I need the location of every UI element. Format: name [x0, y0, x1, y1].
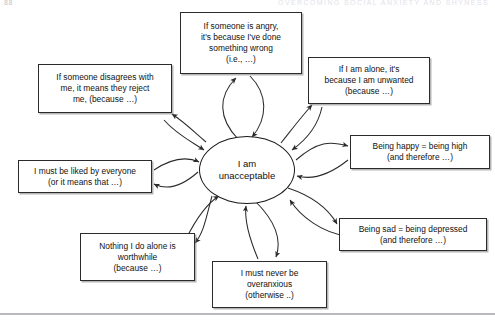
belief-line: (because …): [325, 86, 414, 97]
belief-line: me, it means they reject: [56, 83, 153, 94]
belief-line: (and therefore …): [359, 235, 468, 246]
link-happy-in: [297, 160, 348, 177]
link-overanx-in: [246, 206, 258, 259]
belief-line: (i.e., …): [201, 54, 281, 65]
core-belief-line-1: I am: [219, 158, 276, 170]
link-angry-out: [223, 78, 238, 139]
footer-rule: [0, 313, 495, 315]
figure-page: 88 OVERCOMING SOCIAL ANXIETY AND SHYNESS: [0, 0, 495, 328]
belief-line: me, (because …): [56, 94, 153, 105]
belief-line: I must be liked by everyone: [34, 166, 136, 177]
belief-box-happy: Being happy = being high (and therefore …: [350, 135, 490, 169]
belief-line: If someone disagrees with: [56, 72, 153, 83]
belief-box-angry: If someone is angry, it's because I've d…: [180, 12, 302, 74]
link-alone-in: [292, 107, 322, 150]
belief-line: Being happy = being high: [373, 141, 468, 152]
belief-box-overanxious: I must never be overanxious (otherwise .…: [212, 261, 327, 308]
link-overanx-out: [256, 202, 278, 257]
belief-line: If I am alone, it's: [325, 64, 414, 75]
belief-line: because I am unwanted: [325, 75, 414, 86]
belief-line: overanxious: [241, 279, 299, 290]
belief-line: (and therefore …): [373, 152, 468, 163]
link-alone-out: [281, 105, 312, 143]
belief-line: (or it means that …): [34, 177, 136, 188]
belief-line: (otherwise ..): [241, 290, 299, 301]
belief-box-liked: I must be liked by everyone (or it means…: [18, 160, 152, 193]
belief-line: (because …): [99, 263, 175, 274]
belief-line: If someone is angry,: [201, 21, 281, 32]
link-disagrees-out: [172, 114, 206, 142]
link-liked-out: [154, 172, 198, 187]
belief-line: Nothing I do alone is: [99, 241, 175, 252]
link-sad-out: [288, 188, 337, 224]
link-liked-in: [154, 159, 199, 170]
link-happy-out: [296, 143, 348, 160]
belief-box-nothing-alone: Nothing I do alone is worthwhile (becaus…: [80, 233, 195, 281]
belief-line: something wrong: [201, 43, 281, 54]
belief-line: worthwhile: [99, 252, 175, 263]
belief-box-alone: If I am alone, it's because I am unwante…: [308, 57, 430, 104]
link-angry-in: [250, 76, 264, 137]
belief-line: I must never be: [241, 268, 299, 279]
core-belief-line-2: unacceptable: [219, 170, 276, 182]
belief-line: it's because I've done: [201, 32, 281, 43]
core-belief-oval: I am unacceptable: [199, 136, 295, 204]
belief-line: Being sad = being depressed: [359, 224, 468, 235]
belief-box-disagrees: If someone disagrees with me, it means t…: [38, 64, 172, 113]
belief-box-sad: Being sad = being depressed (and therefo…: [339, 218, 487, 251]
